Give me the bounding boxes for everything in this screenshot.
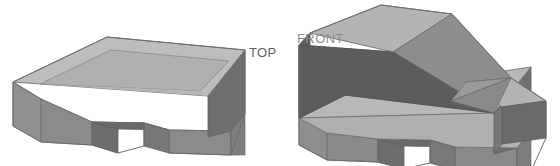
view-label-front: FRONT [297, 31, 344, 46]
left-solid-front-face-left [41, 99, 92, 145]
isometric-views-svg [0, 0, 560, 166]
left-view-solid [13, 37, 245, 155]
drawing-canvas: TOP FRONT [0, 0, 560, 166]
view-label-top: TOP [249, 45, 277, 60]
left-solid-notch-right-wall [144, 123, 169, 153]
right-solid-end-block-right-side [502, 101, 546, 144]
right-view-solid [299, 5, 546, 166]
